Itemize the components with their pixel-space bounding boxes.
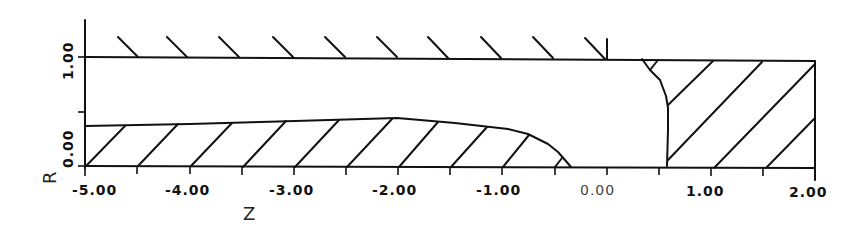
geometry-diagram: 1.00 0.00 R -5.00 -4.00 -3.00 -2.00 -1.0… — [0, 0, 858, 234]
y-axis-title: R — [39, 171, 60, 184]
upper-wall-line — [85, 57, 815, 61]
x-label-neg5: -5.00 — [72, 182, 117, 198]
upper-wall-hatching — [118, 37, 607, 59]
right-body-outline — [642, 59, 668, 166]
x-axis-title: Z — [243, 203, 255, 224]
x-label-neg3: -3.00 — [269, 182, 314, 198]
x-label-1: 1.00 — [686, 183, 725, 199]
right-body-hatching — [650, 60, 815, 168]
x-label-2: 2.00 — [789, 184, 828, 200]
y-label-1: 1.00 — [60, 41, 76, 80]
x-label-neg2: -2.00 — [372, 182, 417, 198]
x-label-0: 0.00 — [580, 182, 615, 198]
x-label-neg4: -4.00 — [165, 182, 210, 198]
x-label-neg1: -1.00 — [476, 182, 521, 198]
lower-body-outline — [85, 118, 571, 167]
y-label-0: 0.00 — [60, 129, 76, 168]
